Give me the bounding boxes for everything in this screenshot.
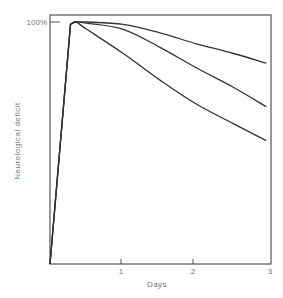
plot-frame — [50, 15, 271, 264]
curves-group — [50, 22, 266, 264]
series-line-curve-upper — [50, 22, 266, 264]
y-axis-label: Neurological deficit — [13, 102, 22, 180]
series-line-curve-lower — [50, 22, 266, 264]
y-tick-label-100: 100% — [27, 18, 47, 27]
x-tick-label-3: 3 — [268, 267, 273, 276]
x-tick-label-1: 1 — [119, 267, 124, 276]
x-tick-label-2: 2 — [191, 267, 196, 276]
series-line-curve-middle — [50, 22, 266, 264]
x-axis-label: Days — [147, 280, 167, 289]
neurological-deficit-chart: 100% 1 2 3 Days Neurological deficit — [0, 0, 283, 298]
